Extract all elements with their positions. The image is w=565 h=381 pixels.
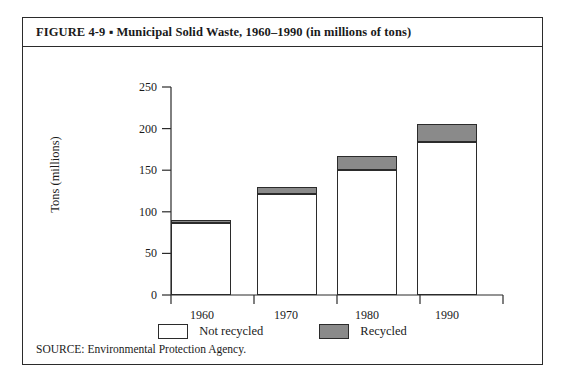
bar-1970-not-recycled (257, 194, 317, 295)
bar-1990-recycled (417, 124, 477, 142)
y-tick-label-50: 50 (123, 247, 157, 259)
chart-plot-area: Tons (millions) 250 200 150 100 50 0 196… (23, 47, 542, 366)
y-tick-label-200: 200 (123, 123, 157, 135)
legend-entry-recycled: Recycled (319, 324, 407, 339)
bar-1980-recycled (337, 156, 397, 170)
legend-swatch-not-recycled (158, 324, 188, 339)
y-tick-label-150: 150 (123, 164, 157, 176)
y-axis-label: Tons (millions) (48, 120, 63, 230)
chart-legend: Not recycled Recycled (23, 324, 542, 339)
legend-label-recycled: Recycled (360, 324, 407, 339)
x-tick-label-1980: 1980 (332, 309, 402, 321)
bar-1970-recycled (257, 187, 317, 195)
x-tick-label-1990: 1990 (412, 309, 482, 321)
y-tick-label-0: 0 (123, 289, 157, 301)
figure-frame: FIGURE 4-9 ▪ Municipal Solid Waste, 1960… (22, 17, 543, 365)
bar-1990-not-recycled (417, 142, 477, 295)
source-note: SOURCE: Environmental Protection Agency. (36, 343, 246, 355)
legend-entry-not-recycled: Not recycled (158, 324, 263, 339)
figure-title: FIGURE 4-9 ▪ Municipal Solid Waste, 1960… (23, 25, 411, 40)
y-tick-label-100: 100 (123, 206, 157, 218)
legend-swatch-recycled (319, 324, 349, 339)
y-tick-label-250: 250 (123, 81, 157, 93)
figure-title-bar: FIGURE 4-9 ▪ Municipal Solid Waste, 1960… (23, 18, 542, 47)
x-tick-label-1960: 1960 (167, 309, 237, 321)
bar-1980-not-recycled (337, 170, 397, 295)
bar-1960-not-recycled (171, 223, 231, 295)
legend-label-not-recycled: Not recycled (199, 324, 263, 339)
x-tick-label-1970: 1970 (251, 309, 321, 321)
